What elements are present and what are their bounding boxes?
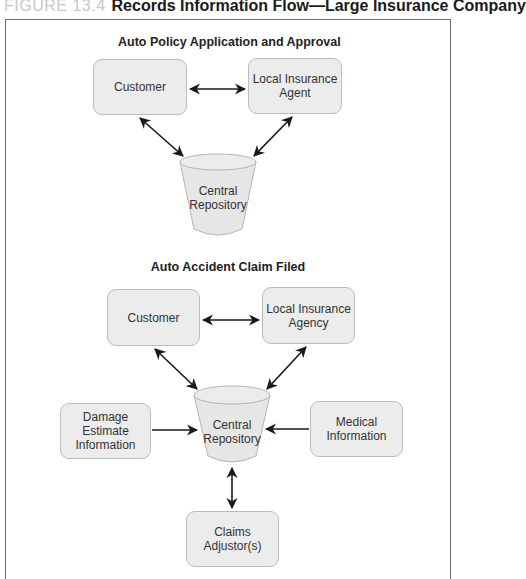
node-medical-label-line1: Medical — [336, 415, 377, 429]
node-customer-label: Customer — [114, 80, 166, 94]
repo-label-line1: Central — [178, 184, 258, 198]
node-agency-label-line1: Local Insurance — [266, 302, 351, 316]
node-central-repository: Central Repository — [178, 184, 258, 212]
node-local-insurance-agent: Local Insurance Agent — [248, 58, 342, 114]
repo2-label-line2: Repository — [192, 432, 272, 446]
node-claims-adjustors: Claims Adjustor(s) — [186, 511, 279, 567]
node-agent-label-line2: Agent — [279, 86, 310, 100]
node-agency-label-line2: Agency — [288, 316, 328, 330]
node-local-insurance-agency: Local Insurance Agency — [262, 287, 355, 344]
arrow-customer-repository — [140, 118, 183, 156]
repo-label-line2: Repository — [178, 198, 258, 212]
node-damage-label-line1: Damage Estimate — [61, 410, 150, 438]
section-title-claim: Auto Accident Claim Filed — [128, 260, 328, 274]
node-medical-information: Medical Information — [310, 401, 403, 457]
node-damage-estimate: Damage Estimate Information — [60, 403, 151, 459]
node-customer-2: Customer — [107, 289, 200, 346]
section-title-policy: Auto Policy Application and Approval — [118, 35, 338, 49]
node-damage-label-line2: Information — [75, 438, 135, 452]
repo2-label-line1: Central — [192, 418, 272, 432]
node-claims-label-line1: Claims — [214, 525, 251, 539]
node-agent-label-line1: Local Insurance — [253, 72, 338, 86]
node-medical-label-line2: Information — [326, 429, 386, 443]
arrow-agency-repository — [267, 347, 306, 389]
node-customer: Customer — [93, 59, 187, 115]
node-customer-2-label: Customer — [127, 311, 179, 325]
arrow-agent-repository — [254, 117, 292, 156]
node-central-repository-2: Central Repository — [192, 418, 272, 446]
arrow-customer-repository-2 — [155, 349, 197, 389]
node-claims-label-line2: Adjustor(s) — [203, 539, 261, 553]
